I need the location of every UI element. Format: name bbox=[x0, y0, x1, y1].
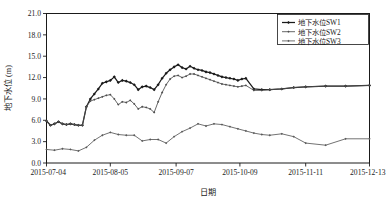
legend-label-3: 地下水位SW3 bbox=[298, 37, 341, 46]
line-chart: 0.03.06.09.012.015.018.021.0 2015-07-042… bbox=[0, 0, 388, 201]
legend-label-2: 地下水位SW2 bbox=[298, 28, 341, 37]
x-tick-label: 2015-10-09 bbox=[222, 168, 258, 177]
x-axis-title: 日期 bbox=[200, 188, 216, 197]
x-tick-label: 2015-09-07 bbox=[158, 168, 194, 177]
y-tick-label: 9.0 bbox=[32, 95, 42, 104]
y-tick-label: 15.0 bbox=[28, 52, 41, 61]
y-tick-label: 21.0 bbox=[28, 9, 41, 18]
y-tick-label: 6.0 bbox=[32, 116, 42, 125]
y-tick-label: 3.0 bbox=[32, 137, 42, 146]
x-tick-label: 2015-08-05 bbox=[93, 168, 129, 177]
legend: 地下水位SW1地下水位SW2地下水位SW3 bbox=[278, 15, 369, 46]
x-tick-label: 2015-11-11 bbox=[288, 168, 323, 177]
x-tick-label: 2015-07-04 bbox=[31, 168, 67, 177]
y-axis-title: 地下水位 (m) bbox=[3, 65, 13, 111]
legend-label-1: 地下水位SW1 bbox=[298, 18, 341, 27]
y-tick-label: 12.0 bbox=[28, 73, 41, 82]
y-tick-label: 18.0 bbox=[28, 31, 41, 40]
y-tick-label: 0.0 bbox=[32, 159, 42, 168]
x-tick-label: 2015-12-13 bbox=[350, 168, 386, 177]
chart-container: 0.03.06.09.012.015.018.021.0 2015-07-042… bbox=[0, 0, 388, 201]
